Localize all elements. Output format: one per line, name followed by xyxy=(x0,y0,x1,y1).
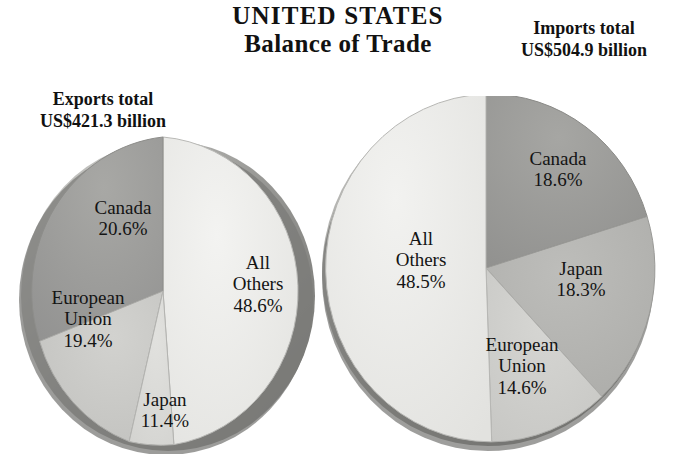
chart-canvas: UNITED STATES Balance of Trade Exports t… xyxy=(0,0,682,467)
imports-label-european-union: European Union 14.6% xyxy=(460,334,584,398)
imports-label-japan: Japan 18.3% xyxy=(533,258,629,301)
exports-others-name-1: All xyxy=(206,252,310,273)
imports-canada-value: 18.6% xyxy=(503,169,613,190)
exports-label-european-union: European Union 19.4% xyxy=(24,287,152,351)
imports-japan-name: Japan xyxy=(533,258,629,279)
exports-label-canada: Canada 20.6% xyxy=(68,197,178,240)
exports-others-value: 48.6% xyxy=(206,295,310,316)
imports-eu-value: 14.6% xyxy=(460,377,584,398)
imports-japan-value: 18.3% xyxy=(533,279,629,300)
exports-japan-value: 11.4% xyxy=(117,410,213,431)
page-title: UNITED STATES Balance of Trade xyxy=(168,2,508,58)
exports-canada-value: 20.6% xyxy=(68,218,178,239)
imports-label-all-others: All Others 48.5% xyxy=(369,228,473,292)
exports-eu-value: 19.4% xyxy=(24,330,152,351)
imports-caption-line-2: US$504.9 billion xyxy=(487,40,681,62)
exports-label-all-others: All Others 48.6% xyxy=(206,252,310,316)
title-line-1: UNITED STATES xyxy=(168,2,508,30)
imports-total-caption: Imports total US$504.9 billion xyxy=(487,18,681,61)
exports-total-caption: Exports total US$421.3 billion xyxy=(8,89,198,132)
exports-caption-line-1: Exports total xyxy=(8,89,198,111)
imports-eu-name-1: European xyxy=(460,334,584,355)
imports-others-name-1: All xyxy=(369,228,473,249)
imports-others-value: 48.5% xyxy=(369,271,473,292)
imports-canada-name: Canada xyxy=(503,148,613,169)
imports-label-canada: Canada 18.6% xyxy=(503,148,613,191)
imports-eu-name-2: Union xyxy=(460,355,584,376)
imports-caption-line-1: Imports total xyxy=(487,18,681,40)
exports-japan-name: Japan xyxy=(117,389,213,410)
exports-others-name-2: Others xyxy=(206,273,310,294)
exports-eu-name-1: European xyxy=(24,287,152,308)
exports-canada-name: Canada xyxy=(68,197,178,218)
imports-others-name-2: Others xyxy=(369,249,473,270)
title-line-2: Balance of Trade xyxy=(168,30,508,58)
exports-eu-name-2: Union xyxy=(24,308,152,329)
exports-label-japan: Japan 11.4% xyxy=(117,389,213,432)
